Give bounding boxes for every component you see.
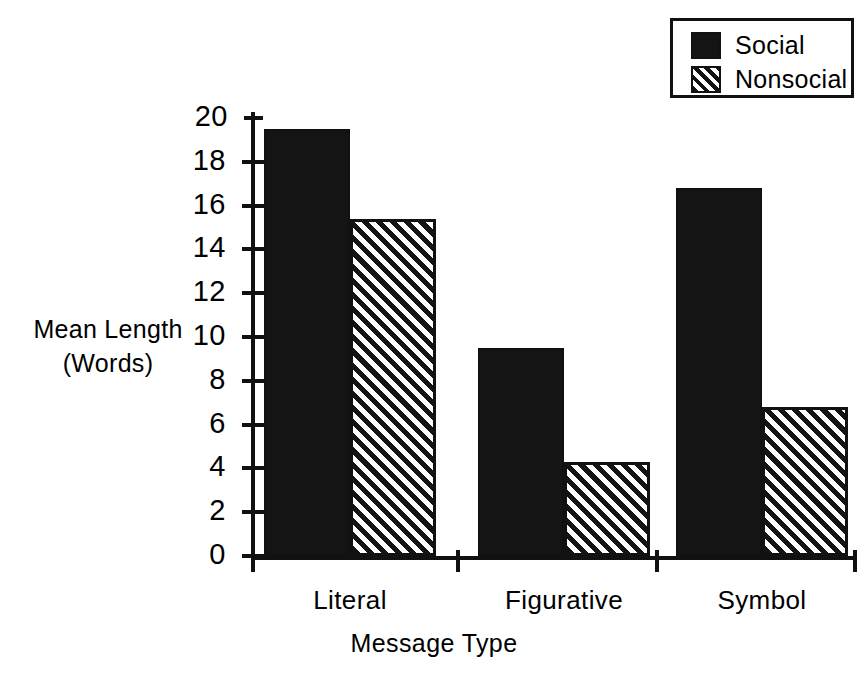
x-tick-0 <box>251 550 255 572</box>
y-tick-4: 4 <box>242 466 264 470</box>
y-tick-label-16: 16 <box>193 189 226 218</box>
bar-figurative-social <box>478 348 564 556</box>
bar-literal-social <box>264 129 350 556</box>
legend-label-social: Social <box>735 32 805 59</box>
y-tick-label-2: 2 <box>209 496 226 525</box>
y-tick-12: 12 <box>242 291 264 295</box>
solid-black-swatch-icon <box>691 32 721 59</box>
bar-symbol-social <box>676 188 762 556</box>
y-tick-14: 14 <box>242 247 264 251</box>
y-tick-label-0: 0 <box>209 540 226 569</box>
y-axis-title-line2: (Words) <box>18 346 198 380</box>
plot-area: 20 18 16 14 12 10 8 6 4 2 0 <box>253 118 855 556</box>
y-tick-6: 6 <box>242 423 264 427</box>
y-tick-label-4: 4 <box>209 452 226 481</box>
y-axis-title: Mean Length (Words) <box>18 312 198 380</box>
y-tick-label-8: 8 <box>209 364 226 393</box>
legend-label-nonsocial: Nonsocial <box>735 66 847 93</box>
y-tick-2: 2 <box>242 510 264 514</box>
x-tick-label-symbol: Symbol <box>717 586 806 614</box>
legend-item-social: Social <box>691 30 805 60</box>
y-tick-label-18: 18 <box>193 145 226 174</box>
y-tick-label-20: 20 <box>195 102 228 131</box>
y-tick-label-12: 12 <box>193 277 226 306</box>
y-tick-16: 16 <box>242 204 264 208</box>
y-tick-label-14: 14 <box>193 233 226 262</box>
bar-chart-figure: Social Nonsocial 20 18 16 14 12 10 8 <box>0 0 868 675</box>
x-tick-label-literal: Literal <box>313 586 387 614</box>
y-tick-18: 18 <box>242 160 264 164</box>
legend-item-nonsocial: Nonsocial <box>691 64 847 94</box>
x-tick-1 <box>456 550 460 572</box>
hatched-swatch-icon <box>691 66 721 93</box>
x-axis-line <box>251 556 857 560</box>
y-tick-label-6: 6 <box>209 408 226 437</box>
x-axis-title: Message Type <box>0 628 868 658</box>
x-tick-2 <box>655 550 659 572</box>
chart-legend: Social Nonsocial <box>670 18 854 98</box>
y-tick-10: 10 <box>242 335 264 339</box>
x-tick-label-figurative: Figurative <box>505 586 623 614</box>
y-tick-20: 20 <box>244 116 263 120</box>
x-tick-3 <box>853 550 857 572</box>
bar-literal-nonsocial <box>350 219 436 556</box>
y-tick-8: 8 <box>242 379 264 383</box>
y-axis-title-line1: Mean Length <box>18 312 198 346</box>
bar-symbol-nonsocial <box>762 407 848 556</box>
bar-figurative-nonsocial <box>564 462 650 556</box>
